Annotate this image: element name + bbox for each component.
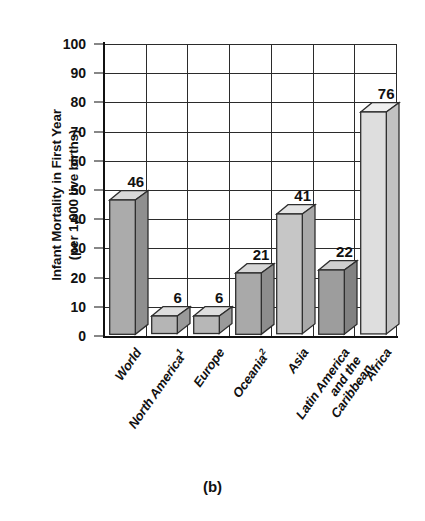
bar-value-label: 6 bbox=[173, 289, 181, 306]
x-axis-category-label: World bbox=[112, 346, 144, 383]
bar bbox=[235, 275, 262, 336]
gridline-vertical bbox=[229, 44, 230, 336]
bar-3d-shape bbox=[193, 306, 234, 336]
bar-value-label: 76 bbox=[378, 85, 395, 102]
y-axis-tick-label: 90 bbox=[40, 65, 86, 81]
y-axis-tick-mark bbox=[94, 219, 103, 220]
x-label-line: World bbox=[112, 345, 145, 383]
bar-value-label: 46 bbox=[128, 173, 145, 190]
x-axis-line bbox=[103, 336, 398, 338]
bar-3d-shape bbox=[151, 306, 192, 336]
x-axis-category-label: Oceania2 bbox=[227, 346, 273, 401]
bar bbox=[193, 318, 220, 336]
y-axis-tick-label: 80 bbox=[40, 94, 86, 110]
gridline-horizontal bbox=[104, 44, 396, 45]
y-axis-tick-label: 100 bbox=[40, 36, 86, 52]
bar-3d-shape bbox=[360, 102, 401, 336]
x-label-line: Europe bbox=[190, 345, 227, 389]
y-axis-tick-mark bbox=[94, 190, 103, 191]
bar bbox=[276, 216, 303, 336]
y-axis-tick-label: 70 bbox=[40, 124, 86, 140]
x-label-line: Oceania2 bbox=[230, 348, 273, 401]
y-axis-line bbox=[103, 42, 105, 338]
x-label-line: Asia bbox=[284, 345, 312, 375]
y-axis-tick-label: 30 bbox=[40, 240, 86, 256]
bar-value-label: 21 bbox=[253, 246, 270, 263]
y-axis-tick-mark bbox=[94, 306, 103, 307]
y-axis-tick-mark bbox=[94, 73, 103, 74]
gridline-vertical bbox=[187, 44, 188, 336]
y-axis-tick-mark bbox=[94, 336, 103, 337]
y-axis-tick-mark bbox=[94, 102, 103, 103]
y-axis-tick-label: 10 bbox=[40, 299, 86, 315]
y-axis-tick-label: 20 bbox=[40, 270, 86, 286]
y-axis-tick-label: 50 bbox=[40, 182, 86, 198]
y-axis-tick-mark bbox=[94, 248, 103, 249]
gridline-horizontal bbox=[104, 102, 396, 103]
bar-3d-shape bbox=[109, 190, 150, 336]
figure-caption: (b) bbox=[0, 478, 425, 495]
bar bbox=[318, 272, 345, 336]
gridline-horizontal bbox=[104, 132, 396, 133]
bar bbox=[151, 318, 178, 336]
plot-area bbox=[104, 44, 396, 336]
gridline-horizontal bbox=[104, 161, 396, 162]
bar-3d-shape bbox=[318, 260, 359, 336]
figure-bar-chart: Infant Mortality in First Year (per 1,00… bbox=[0, 0, 425, 521]
y-axis-tick-label: 40 bbox=[40, 211, 86, 227]
x-axis-category-label: Asia bbox=[284, 346, 311, 376]
bar bbox=[360, 114, 387, 336]
y-axis-tick-label: 60 bbox=[40, 153, 86, 169]
x-axis-category-label: Europe bbox=[191, 346, 227, 390]
x-axis-category-label: Africa bbox=[363, 346, 395, 383]
y-axis-tick-label: 0 bbox=[40, 328, 86, 344]
y-axis-tick-mark bbox=[94, 131, 103, 132]
bar-value-label: 22 bbox=[336, 243, 353, 260]
bar-3d-shape bbox=[235, 263, 276, 336]
gridline-horizontal bbox=[104, 73, 396, 74]
y-axis-tick-mark bbox=[94, 277, 103, 278]
bar-value-label: 41 bbox=[294, 187, 311, 204]
bar-value-label: 6 bbox=[215, 289, 223, 306]
bar-3d-shape bbox=[276, 204, 317, 336]
y-axis-tick-mark bbox=[94, 160, 103, 161]
bar bbox=[109, 202, 136, 336]
y-axis-tick-mark bbox=[94, 44, 103, 45]
